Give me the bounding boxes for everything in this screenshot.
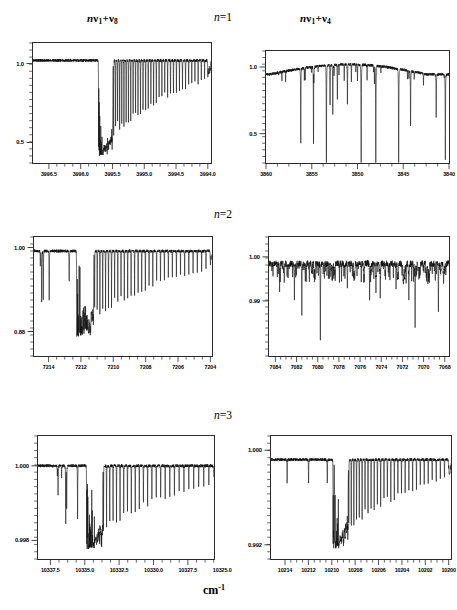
- x-tick-label: 10330.0: [144, 567, 163, 573]
- y-tick-label: 1.000: [248, 447, 262, 453]
- x-axis-unit-label: cm-1: [203, 583, 225, 598]
- x-tick-label: 7208: [140, 364, 152, 370]
- x-tick-label: 3994.5: [168, 171, 184, 177]
- x-tick-label: 3855: [306, 171, 318, 177]
- plot-area: [265, 50, 450, 164]
- y-tick-marks: [25, 42, 32, 164]
- x-tick-label: 7214: [43, 364, 55, 370]
- x-tick-label: 7080: [312, 364, 324, 370]
- x-tick-label: 3860: [260, 171, 272, 177]
- x-tick-label: 3850: [352, 171, 364, 177]
- x-axis: 3996.53996.03995.53995.03994.53994.0: [32, 164, 212, 186]
- x-tick-label: 10214: [278, 567, 293, 573]
- spectrum-trace: [33, 43, 211, 163]
- x-tick-label: 3996.5: [41, 171, 57, 177]
- spectrum-trace: [38, 436, 214, 559]
- figure-root: nν1+ν8 nν1+ν4 n=1 n=2 n=3 3996.53996.039…: [0, 0, 457, 610]
- column-title-left: nν1+ν8: [87, 12, 118, 26]
- plot-area: [33, 236, 213, 357]
- row-label-n1-eq: =1: [220, 11, 232, 23]
- y-tick-marks: [258, 50, 265, 164]
- x-tick-label: 7068: [439, 364, 451, 370]
- y-tick-marks: [26, 236, 33, 357]
- x-axis: 1021410212102101020810206102041020210200: [270, 560, 452, 582]
- y-tick-label: 0.5: [16, 139, 24, 145]
- panel-n2-right: 7084708270807078707670747072707070681.00…: [236, 232, 457, 375]
- x-tick-label: 10202: [418, 567, 433, 573]
- row-label-n3: n=3: [214, 409, 232, 421]
- col-right-sub2: 4: [327, 17, 331, 26]
- x-tick-label: 10206: [371, 567, 386, 573]
- x-tick-marks: [268, 357, 450, 364]
- plot-area: [268, 236, 450, 357]
- panel-n2-left: 7214721272107208720672041.000.88: [0, 232, 220, 375]
- x-tick-marks: [265, 164, 450, 171]
- x-axis: 10337.510335.010332.510330.010327.510325…: [37, 560, 215, 582]
- y-axis: 1.00.5: [2, 42, 32, 164]
- y-tick-label: 1.0: [16, 61, 24, 67]
- y-tick-label: 1.00: [14, 245, 25, 251]
- x-tick-label: 3996.0: [73, 171, 89, 177]
- panel-n3-right: 1021410212102101020810206102041020210200…: [236, 432, 457, 580]
- plot-area: [32, 42, 212, 164]
- x-tick-label: 10212: [301, 567, 316, 573]
- x-tick-label: 10335.0: [75, 567, 94, 573]
- x-axis-unit-text: cm: [203, 583, 218, 597]
- row-label-n2: n=2: [214, 208, 232, 220]
- y-tick-label: 0.5: [249, 131, 257, 137]
- row-label-n3-eq: =3: [220, 409, 232, 421]
- x-tick-label: 7204: [205, 364, 217, 370]
- x-tick-label: 3995.5: [105, 171, 121, 177]
- x-tick-label: 3994.0: [200, 171, 216, 177]
- x-tick-label: 10337.5: [41, 567, 60, 573]
- x-tick-label: 3840: [443, 171, 455, 177]
- x-tick-label: 10327.5: [178, 567, 197, 573]
- y-axis: 1.00.5: [235, 50, 265, 164]
- y-tick-label: 0.998: [15, 537, 29, 543]
- spectrum-trace: [269, 237, 449, 356]
- spectrum-trace: [271, 436, 451, 559]
- y-tick-label: 0.992: [248, 542, 262, 548]
- y-tick-marks: [30, 435, 37, 560]
- x-tick-marks: [270, 560, 452, 567]
- x-tick-label: 7082: [291, 364, 303, 370]
- y-axis: 1.000.99: [238, 236, 268, 357]
- x-tick-label: 7076: [354, 364, 366, 370]
- panel-n1-left: 3996.53996.03995.53995.03994.53994.01.00…: [0, 36, 220, 184]
- x-tick-label: 10325.0: [213, 567, 232, 573]
- spectrum-trace: [34, 237, 212, 356]
- y-axis: 1.0000.992: [240, 435, 270, 560]
- plot-area: [270, 435, 452, 560]
- panel-n3-left: 10337.510335.010332.510330.010327.510325…: [0, 432, 220, 580]
- x-tick-marks: [37, 560, 215, 567]
- col-left-sub2: 8: [114, 17, 118, 26]
- x-tick-label: 7210: [107, 364, 119, 370]
- x-axis: 708470827080707870767074707270707068: [268, 357, 450, 379]
- x-tick-label: 3995.0: [136, 171, 152, 177]
- x-tick-marks: [32, 164, 212, 171]
- x-tick-label: 7070: [418, 364, 430, 370]
- y-axis: 1.0000.998: [7, 435, 37, 560]
- x-tick-label: 10210: [325, 567, 340, 573]
- x-tick-label: 7084: [270, 364, 282, 370]
- x-tick-label: 10200: [441, 567, 456, 573]
- x-tick-label: 3845: [397, 171, 409, 177]
- x-tick-label: 7078: [333, 364, 345, 370]
- x-tick-label: 7212: [75, 364, 87, 370]
- x-axis: 721472127210720872067204: [33, 357, 213, 379]
- x-axis: 38603855385038453840: [265, 164, 450, 186]
- y-tick-label: 0.88: [14, 329, 25, 335]
- y-tick-label: 1.0: [249, 64, 257, 70]
- column-title-right: nν1+ν4: [300, 12, 331, 26]
- y-tick-label: 0.99: [249, 298, 260, 304]
- y-tick-label: 1.000: [15, 463, 29, 469]
- x-axis-unit-exponent: -1: [218, 583, 225, 592]
- x-tick-label: 10208: [348, 567, 363, 573]
- x-tick-label: 7074: [375, 364, 387, 370]
- x-tick-label: 7206: [172, 364, 184, 370]
- x-tick-marks: [33, 357, 213, 364]
- panel-n1-right: 386038553850384538401.00.5: [236, 36, 457, 184]
- y-tick-marks: [263, 435, 270, 560]
- y-tick-marks: [261, 236, 268, 357]
- spectrum-trace: [266, 51, 449, 163]
